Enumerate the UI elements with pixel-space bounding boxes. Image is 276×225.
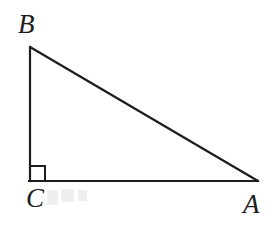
vertex-label-b: B [18, 11, 35, 38]
vertex-label-c: C [26, 185, 44, 212]
scan-artifact [47, 190, 58, 205]
side-ab-line [30, 47, 258, 181]
geometry-figure: B C A [0, 0, 276, 225]
scan-artifact [78, 190, 87, 201]
scan-artifact [61, 189, 74, 202]
right-angle-marker-icon [30, 166, 45, 181]
vertex-label-a: A [243, 191, 260, 218]
